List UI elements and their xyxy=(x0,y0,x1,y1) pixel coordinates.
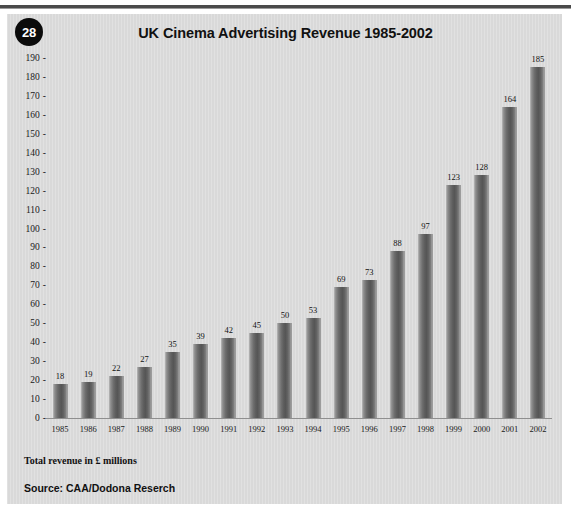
y-axis-tick: 90- xyxy=(2,242,46,252)
x-axis-tick-label: 1996 xyxy=(361,424,378,434)
y-axis-tick-label: 80 xyxy=(30,261,40,271)
y-axis-tick-label: 120 xyxy=(26,186,40,196)
bar[interactable] xyxy=(277,323,292,418)
bar-column[interactable]: 69 xyxy=(334,58,349,418)
bar-column[interactable]: 164 xyxy=(502,58,517,418)
x-axis-baseline xyxy=(46,418,552,419)
y-axis-tick: 170- xyxy=(2,91,46,101)
bar-column[interactable]: 39 xyxy=(193,58,208,418)
bar[interactable] xyxy=(109,376,124,418)
bar-series: 1819222735394245505369738897123128164185 xyxy=(46,58,552,418)
bar-column[interactable]: 19 xyxy=(81,58,96,418)
bar-value-label: 88 xyxy=(393,238,402,248)
y-axis-tick: 60- xyxy=(2,299,46,309)
bar-column[interactable]: 27 xyxy=(137,58,152,418)
x-axis-tick-label: 1988 xyxy=(136,424,153,434)
y-axis-tick: 70- xyxy=(2,280,46,290)
bar-value-label: 69 xyxy=(337,274,346,284)
y-axis-tick-label: 180 xyxy=(26,72,40,82)
bar-column[interactable]: 97 xyxy=(418,58,433,418)
x-axis-tick-label: 1987 xyxy=(108,424,125,434)
y-axis-tick: 110- xyxy=(2,205,46,215)
y-axis-tick-label: 160 xyxy=(26,110,40,120)
top-divider-rule xyxy=(0,5,571,8)
bar-column[interactable]: 42 xyxy=(221,58,236,418)
bar[interactable] xyxy=(502,107,517,418)
x-axis-tick-label: 1998 xyxy=(417,424,434,434)
x-axis-tick-label: 1994 xyxy=(305,424,322,434)
y-axis-tick-label: 170 xyxy=(26,91,40,101)
y-axis-tick: 150- xyxy=(2,129,46,139)
x-axis-tick-label: 1990 xyxy=(192,424,209,434)
x-axis-tick-label: 1986 xyxy=(80,424,97,434)
y-axis-tick: 30- xyxy=(2,356,46,366)
bar-column[interactable]: 88 xyxy=(390,58,405,418)
bar[interactable] xyxy=(81,382,96,418)
x-axis-tick-label: 1992 xyxy=(248,424,265,434)
x-axis-tick-label: 2002 xyxy=(529,424,546,434)
y-axis-tick-label: 50 xyxy=(30,318,40,328)
y-axis-tick-label: 90 xyxy=(30,242,40,252)
bar[interactable] xyxy=(418,234,433,418)
y-axis-tick: 80- xyxy=(2,261,46,271)
bar-column[interactable]: 45 xyxy=(249,58,264,418)
y-axis-tick: 140- xyxy=(2,148,46,158)
bar-column[interactable]: 53 xyxy=(306,58,321,418)
x-axis-tick-label: 1991 xyxy=(220,424,237,434)
bar[interactable] xyxy=(446,185,461,418)
bar[interactable] xyxy=(390,251,405,418)
bar-value-label: 19 xyxy=(84,369,93,379)
bar-value-label: 27 xyxy=(140,354,149,364)
y-axis-tick: 10- xyxy=(2,394,46,404)
bar[interactable] xyxy=(530,67,545,418)
y-axis-tick: 40- xyxy=(2,337,46,347)
bar[interactable] xyxy=(193,344,208,418)
bar[interactable] xyxy=(221,338,236,418)
x-axis-labels: 1985198619871988198919901991199219931994… xyxy=(46,424,552,440)
bar[interactable] xyxy=(306,318,321,418)
bar-value-label: 45 xyxy=(253,320,262,330)
bar-column[interactable]: 73 xyxy=(362,58,377,418)
y-axis-tick-label: 130 xyxy=(26,167,40,177)
bar[interactable] xyxy=(474,175,489,418)
x-axis-tick-label: 1985 xyxy=(52,424,69,434)
chart-note: Total revenue in £ millions xyxy=(24,455,137,466)
bar-value-label: 128 xyxy=(475,162,488,172)
bar-value-label: 97 xyxy=(421,221,430,231)
y-axis-tick-label: 20 xyxy=(30,375,40,385)
bar[interactable] xyxy=(249,333,264,418)
bar-column[interactable]: 128 xyxy=(474,58,489,418)
y-axis-tick-label: 100 xyxy=(26,224,40,234)
bar-value-label: 185 xyxy=(532,54,545,64)
bar-column[interactable]: 18 xyxy=(53,58,68,418)
bar-column[interactable]: 22 xyxy=(109,58,124,418)
y-axis-tick-label: 30 xyxy=(30,356,40,366)
bar[interactable] xyxy=(53,384,68,418)
bar-value-label: 73 xyxy=(365,267,374,277)
x-axis-tick-label: 1993 xyxy=(276,424,293,434)
x-axis-tick-label: 2001 xyxy=(501,424,518,434)
y-axis-tick-label: 10 xyxy=(30,394,40,404)
y-axis-tick: 50- xyxy=(2,318,46,328)
bar-value-label: 42 xyxy=(224,325,233,335)
bar-column[interactable]: 50 xyxy=(277,58,292,418)
bar[interactable] xyxy=(165,352,180,418)
bar[interactable] xyxy=(362,280,377,418)
y-axis-tick-label: 140 xyxy=(26,148,40,158)
x-axis-tick-label: 1995 xyxy=(333,424,350,434)
bar-column[interactable]: 185 xyxy=(530,58,545,418)
bar-value-label: 18 xyxy=(56,371,65,381)
bar-value-label: 35 xyxy=(168,339,177,349)
bar-column[interactable]: 35 xyxy=(165,58,180,418)
y-axis-tick-label: 40 xyxy=(30,337,40,347)
y-axis-tick: 120- xyxy=(2,186,46,196)
x-axis-tick-label: 1997 xyxy=(389,424,406,434)
y-axis: 0-10-20-30-40-50-60-70-80-90-100-110-120… xyxy=(0,0,46,518)
bar-column[interactable]: 123 xyxy=(446,58,461,418)
x-axis-tick-label: 1989 xyxy=(164,424,181,434)
chart-page: 28 UK Cinema Advertising Revenue 1985-20… xyxy=(0,0,571,518)
bar[interactable] xyxy=(137,367,152,418)
bar[interactable] xyxy=(334,287,349,418)
x-axis-tick-label: 1999 xyxy=(445,424,462,434)
x-axis-tick-label: 2000 xyxy=(473,424,490,434)
